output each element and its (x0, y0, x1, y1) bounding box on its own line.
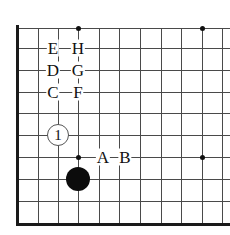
board-label-c: C (46, 84, 59, 101)
grid-line-vertical-4 (99, 28, 100, 223)
board-label-a: A (96, 149, 110, 166)
grid-line-vertical-1 (38, 28, 39, 223)
star-point-top-left (76, 26, 81, 31)
grid-line-vertical-7 (161, 28, 162, 223)
black-stone (66, 167, 90, 191)
board-edge-left (16, 25, 19, 226)
grid-line-vertical-8 (181, 28, 182, 223)
white-stone-move-1: 1 (47, 124, 69, 146)
star-point-lower-left (76, 155, 81, 160)
grid-line-vertical-6 (140, 28, 141, 223)
board-label-g: G (71, 62, 85, 79)
grid-line-horizontal-7 (17, 179, 230, 180)
board-label-d: D (46, 62, 60, 79)
board-label-h: H (71, 40, 85, 57)
star-point-top-right (200, 26, 205, 31)
grid-line-horizontal-8 (17, 201, 230, 202)
board-label-b: B (118, 149, 131, 166)
grid-line-horizontal-4 (17, 113, 230, 114)
board-label-f: F (72, 84, 83, 101)
go-board-diagram: 1 EHDGCFAB (0, 0, 230, 235)
star-point-center-right (200, 155, 205, 160)
grid-line-vertical-9 (202, 28, 203, 223)
grid-line-vertical-5 (119, 28, 120, 223)
grid-line-horizontal-0 (17, 28, 230, 29)
board-label-e: E (47, 40, 59, 57)
board-edge-bottom (16, 223, 230, 226)
white-stone-move-1-label: 1 (54, 128, 62, 143)
grid-line-vertical-10 (222, 28, 223, 223)
